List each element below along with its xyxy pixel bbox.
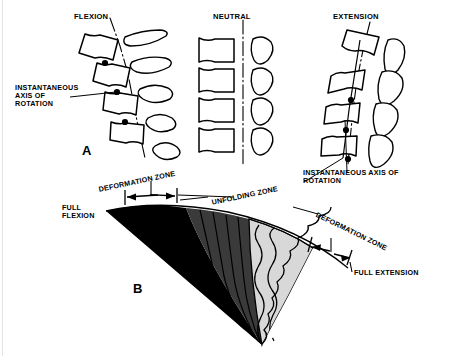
extension-axis-dot-3: [345, 156, 351, 162]
callout-right-line-2: ROTATION: [303, 176, 341, 185]
extension-spinous-3: [373, 103, 398, 137]
heading-extension: EXTENSION: [333, 13, 379, 22]
label-full-flexion: FULL FLEXION: [62, 204, 95, 220]
panel-a-letter: A: [82, 143, 91, 158]
neutral-vertebra-3: [199, 98, 234, 122]
callout-instantaneous-axis-right: INSTANTANEOUS AXIS OF ROTATION: [303, 169, 399, 185]
extension-vertebra-1: [342, 30, 379, 55]
panel-a-neutral-group: [199, 20, 273, 165]
extension-spinous-4: [369, 135, 393, 168]
flexion-spinous-4: [146, 115, 176, 132]
extension-spinous-2: [378, 71, 403, 105]
full-flexion-line-2: FLEXION: [62, 211, 95, 220]
flexion-vertebra-2: [93, 63, 130, 87]
neutral-spinous-2: [251, 68, 273, 95]
panel-b-group: [106, 181, 352, 345]
extension-vertebra-4: [321, 136, 357, 156]
neutral-vertebra-2: [199, 68, 234, 92]
flexion-axis-dot-1: [102, 60, 108, 66]
extension-axis-dot-2: [343, 127, 349, 133]
neutral-spinous-1: [251, 37, 273, 64]
neutral-spinous-4: [251, 128, 273, 155]
left-zone-arrowhead-left: [127, 194, 136, 201]
flexion-spinous-3: [138, 85, 172, 102]
left-zone-arrowhead-right: [166, 193, 175, 200]
heading-neutral: NEUTRAL: [213, 13, 251, 22]
unfolding-zone-leader-right: [293, 207, 318, 214]
callout-left-line-3: ROTATION: [15, 99, 53, 108]
flexion-spinous-1: [124, 30, 167, 46]
panel-a-extension-group: [304, 22, 405, 182]
unfolding-zone-leader-left: [180, 197, 208, 200]
flexion-axis-dot-3: [122, 119, 128, 125]
flexion-vertebra-3: [103, 92, 138, 115]
full-extension-leader: [350, 262, 352, 272]
neutral-spinous-3: [251, 98, 273, 125]
neutral-vertebra-4: [199, 128, 234, 152]
extension-vertebra-2: [328, 70, 365, 93]
extension-vertebra-3: [324, 103, 360, 124]
extension-spinous-1: [384, 39, 405, 74]
flexion-vertebra-1: [79, 34, 118, 60]
flexion-vertebra-4: [110, 122, 144, 144]
extension-axis-dot-1: [348, 97, 354, 103]
label-full-extension: FULL EXTENSION: [354, 269, 419, 277]
panel-b-letter: B: [133, 281, 142, 296]
flexion-spinous-2: [130, 57, 171, 73]
figure-root: FLEXION NEUTRAL EXTENSION INSTANTANEOUS …: [0, 0, 449, 356]
flexion-spinous-5: [153, 143, 180, 160]
callout-instantaneous-axis-left: INSTANTANEOUS AXIS OF ROTATION: [15, 84, 78, 108]
heading-flexion: FLEXION: [74, 13, 108, 22]
neutral-vertebra-1: [199, 38, 234, 62]
panel-a-flexion-group: [70, 18, 180, 160]
